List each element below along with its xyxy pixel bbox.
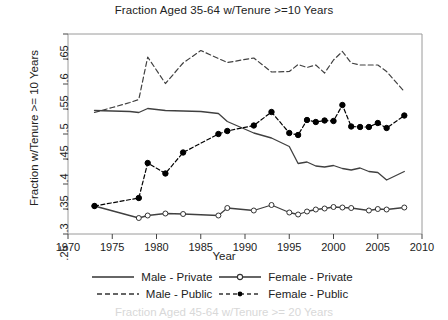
legend-label: Female - Public xyxy=(268,288,348,300)
series-marker-1 xyxy=(305,209,310,214)
x-tick-label: 1980 xyxy=(137,241,177,253)
legend-row-1: Male - Private Female - Private xyxy=(0,268,448,285)
series-line-2 xyxy=(95,51,405,113)
series-marker-1 xyxy=(331,205,336,210)
series-marker-1 xyxy=(313,207,318,212)
chart-legend: Male - Private Female - Private Male - P… xyxy=(0,268,448,302)
x-tick-label: 1995 xyxy=(269,241,309,253)
chart-figure: Fraction Aged 35-64 w/Tenure >=10 Years … xyxy=(0,0,448,320)
series-marker-3 xyxy=(136,195,141,200)
series-marker-1 xyxy=(225,206,230,211)
series-marker-1 xyxy=(349,206,354,211)
series-marker-3 xyxy=(180,150,185,155)
series-marker-3 xyxy=(357,124,362,129)
series-marker-1 xyxy=(366,208,371,213)
series-marker-1 xyxy=(384,207,389,212)
plot-frame xyxy=(68,34,422,234)
x-tick-label: 2000 xyxy=(314,241,354,253)
legend-swatch-solid-open-circle xyxy=(217,271,263,283)
series-marker-3 xyxy=(322,118,327,123)
series-marker-3 xyxy=(304,117,309,122)
legend-label: Male - Private xyxy=(141,271,212,283)
series-marker-3 xyxy=(375,120,380,125)
legend-entry-male-public: Male - Public xyxy=(95,288,217,300)
series-marker-3 xyxy=(92,203,97,208)
series-marker-3 xyxy=(384,125,389,130)
series-marker-1 xyxy=(216,213,221,218)
series-marker-3 xyxy=(313,119,318,124)
series-marker-3 xyxy=(349,124,354,129)
series-marker-1 xyxy=(322,206,327,211)
x-tick-label: 1990 xyxy=(225,241,265,253)
legend-entry-female-private: Female - Private xyxy=(217,271,357,283)
series-marker-3 xyxy=(287,130,292,135)
series-marker-1 xyxy=(251,208,256,213)
legend-entry-female-public: Female - Public xyxy=(217,288,353,300)
legend-swatch-solid xyxy=(90,271,136,283)
x-tick-label: 2005 xyxy=(358,241,398,253)
legend-label: Female - Private xyxy=(268,271,352,283)
series-marker-1 xyxy=(402,205,407,210)
series-marker-1 xyxy=(163,211,168,216)
series-marker-3 xyxy=(402,113,407,118)
series-marker-1 xyxy=(145,213,150,218)
series-marker-1 xyxy=(296,212,301,217)
series-marker-3 xyxy=(331,118,336,123)
legend-row-2: Male - Public Female - Public xyxy=(0,285,448,302)
legend-swatch-dashed-filled-circle xyxy=(217,288,263,300)
series-marker-3 xyxy=(145,160,150,165)
series-marker-3 xyxy=(163,171,168,176)
x-tick-label: 2010 xyxy=(402,241,442,253)
series-marker-3 xyxy=(366,124,371,129)
series-marker-1 xyxy=(287,210,292,215)
legend-entry-male-private: Male - Private xyxy=(90,271,217,283)
series-marker-3 xyxy=(269,109,274,114)
series-marker-1 xyxy=(269,203,274,208)
x-tick-label: 1975 xyxy=(92,241,132,253)
series-marker-1 xyxy=(375,207,380,212)
series-marker-1 xyxy=(340,205,345,210)
series-marker-1 xyxy=(136,216,141,221)
x-tick-label: 1985 xyxy=(181,241,221,253)
series-marker-3 xyxy=(251,123,256,128)
series-marker-3 xyxy=(216,131,221,136)
series-marker-3 xyxy=(225,128,230,133)
series-marker-3 xyxy=(340,102,345,107)
series-line-0 xyxy=(95,109,405,181)
legend-swatch-dashed xyxy=(95,288,141,300)
legend-label: Male - Public xyxy=(146,288,212,300)
series-line-3 xyxy=(95,105,405,206)
series-marker-1 xyxy=(181,212,186,217)
x-tick-label: 1970 xyxy=(48,241,88,253)
series-marker-3 xyxy=(295,132,300,137)
next-figure-partial-title: Fraction Aged 45-64 w/Tenure >= 20 Years xyxy=(0,306,448,319)
y-tick-label: .65 xyxy=(58,33,70,73)
